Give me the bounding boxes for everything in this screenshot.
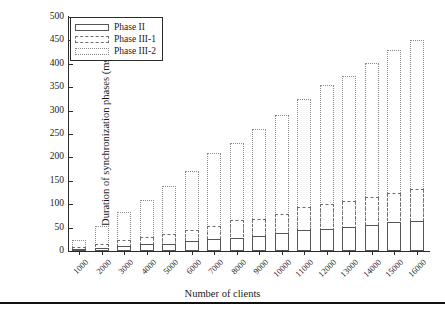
bar-group [297, 17, 311, 251]
bar-segment-phase-ii [185, 241, 199, 251]
x-tick [214, 251, 215, 255]
y-tick-label: 350 [50, 80, 64, 93]
bar-segment-phase-ii [95, 248, 109, 251]
x-tick [192, 251, 193, 255]
bar-group [207, 17, 221, 251]
y-tick-label: 100 [50, 197, 64, 210]
x-tick-label: 8000 [221, 257, 248, 284]
bar-group [230, 17, 244, 251]
y-tick-mark [68, 251, 73, 252]
bar-group [387, 17, 401, 251]
x-tick [259, 251, 260, 255]
bar-segment-phase-ii [410, 221, 424, 251]
x-tick [237, 251, 238, 255]
legend-swatch-solid-icon [75, 24, 109, 31]
x-tick-label: 13000 [333, 257, 360, 284]
bar-segment-phase-ii [162, 244, 176, 251]
legend-label-phase-iii-2: Phase III-2 [114, 45, 156, 57]
y-tick-label: 0 [59, 244, 64, 257]
x-tick [327, 251, 328, 255]
bar-group [185, 17, 199, 251]
y-tick-label: 50 [55, 221, 65, 234]
bar-segment-phase-ii [207, 239, 221, 251]
figure: 050100150200250300350400450500 100020003… [0, 0, 445, 313]
bar-segment-phase-ii [320, 229, 334, 251]
legend-item-phase-iii-2: Phase III-2 [75, 45, 156, 57]
x-tick-label: 3000 [108, 257, 135, 284]
bar-segment-phase-ii [342, 227, 356, 251]
bar-segment-phase-ii [72, 249, 86, 251]
x-tick [79, 251, 80, 255]
bar-segment-phase-ii [230, 238, 244, 251]
bar-group [252, 17, 266, 251]
x-tick-label: 11000 [288, 257, 315, 284]
legend-item-phase-iii-1: Phase III-1 [75, 33, 156, 45]
y-tick: 0 [68, 251, 73, 252]
x-tick-label: 16000 [401, 257, 428, 284]
footer-rule [0, 302, 445, 304]
y-tick-label: 500 [50, 10, 64, 23]
x-tick [394, 251, 395, 255]
y-tick-label: 200 [50, 150, 64, 163]
x-tick [169, 251, 170, 255]
legend-swatch-dotted-icon [75, 48, 109, 55]
x-tick-label: 6000 [176, 257, 203, 284]
bar-segment-phase-ii [117, 246, 131, 251]
bar-segment-phase-ii [252, 236, 266, 251]
y-tick-label: 450 [50, 33, 64, 46]
legend-label-phase-ii: Phase II [114, 21, 145, 33]
y-tick-label: 150 [50, 174, 64, 187]
bar-segment-phase-ii [297, 230, 311, 251]
bar-group [275, 17, 289, 251]
bar-group [365, 17, 379, 251]
bar-group [410, 17, 424, 251]
x-tick-label: 14000 [356, 257, 383, 284]
legend-swatch-dashed-icon [75, 36, 109, 43]
x-axis-line [68, 251, 430, 252]
x-tick-label: 7000 [198, 257, 225, 284]
x-tick [304, 251, 305, 255]
x-tick [349, 251, 350, 255]
y-tick-label: 250 [50, 127, 64, 140]
legend-label-phase-iii-1: Phase III-1 [114, 33, 156, 45]
x-tick [147, 251, 148, 255]
bar-segment-phase-ii [275, 233, 289, 251]
x-tick [417, 251, 418, 255]
x-tick-label: 4000 [131, 257, 158, 284]
legend-item-phase-ii: Phase II [75, 21, 156, 33]
x-tick-label: 9000 [243, 257, 270, 284]
bar-group [320, 17, 334, 251]
bar-segment-phase-ii [387, 222, 401, 251]
x-tick-label: 5000 [153, 257, 180, 284]
x-tick [372, 251, 373, 255]
x-tick-label: 10000 [266, 257, 293, 284]
bar-group [342, 17, 356, 251]
x-tick-label: 12000 [311, 257, 338, 284]
x-tick-label: 1000 [63, 257, 90, 284]
x-tick [124, 251, 125, 255]
bar-segment-phase-ii [365, 225, 379, 251]
bar-group [162, 17, 176, 251]
y-tick-label: 400 [50, 57, 64, 70]
x-tick [282, 251, 283, 255]
x-axis-title: Number of clients [0, 288, 445, 299]
x-tick-label: 2000 [86, 257, 113, 284]
x-tick-label: 15000 [378, 257, 405, 284]
bar-segment-phase-ii [140, 244, 154, 251]
y-tick-label: 300 [50, 104, 64, 117]
chart-legend: Phase II Phase III-1 Phase III-2 [70, 17, 163, 61]
